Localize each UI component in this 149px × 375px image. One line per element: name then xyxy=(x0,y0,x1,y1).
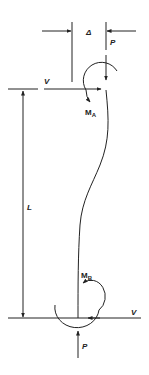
bottom-v-label: V xyxy=(131,308,137,317)
top-moment-arc-icon xyxy=(83,62,117,102)
deflected-column-curve xyxy=(78,90,108,318)
m-a-label: MA xyxy=(85,108,97,118)
top-v-label: V xyxy=(44,77,50,86)
bottom-p-label: P xyxy=(82,342,88,351)
delta-label: Δ xyxy=(85,28,92,37)
length-label: L xyxy=(27,203,32,212)
bottom-moment-arc-icon xyxy=(55,280,105,327)
column-diagram: Δ P L V MA V MB P xyxy=(0,0,149,375)
top-p-label: P xyxy=(110,38,116,47)
m-b-label: MB xyxy=(81,271,93,281)
